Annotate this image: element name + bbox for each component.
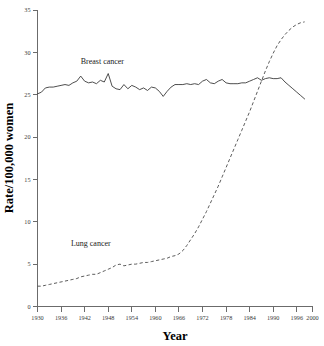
y-tick-label: 10	[24, 218, 30, 225]
y-axis-title: Rate/100,000 women	[2, 103, 16, 213]
y-axis-ticks: 05101520253035	[24, 6, 37, 310]
x-tick-label: 1984	[243, 314, 255, 321]
x-axis: 1930193619421948195419601966197219781984…	[31, 307, 318, 344]
x-tick-label: 1996	[291, 314, 303, 321]
series-annotations: Breast cancerLung cancer	[71, 57, 124, 247]
x-tick-label: 1972	[196, 314, 208, 321]
chart-canvas: 05101520253035 Rate/100,000 women 193019…	[0, 0, 324, 346]
x-tick-label: 1948	[102, 314, 114, 321]
y-tick-label: 35	[24, 6, 30, 13]
x-tick-label: 1966	[173, 314, 185, 321]
x-tick-label: 2000	[306, 314, 318, 321]
x-tick-label: 1978	[220, 314, 232, 321]
y-tick-label: 25	[24, 91, 30, 98]
y-tick-label: 30	[24, 49, 30, 56]
x-tick-label: 1990	[267, 314, 279, 321]
series-annotation-label: Lung cancer	[71, 239, 111, 248]
x-tick-label: 1942	[78, 314, 90, 321]
y-axis: 05101520253035 Rate/100,000 women	[2, 6, 38, 310]
cancer-rate-line-chart: 05101520253035 Rate/100,000 women 193019…	[0, 0, 324, 346]
y-tick-label: 20	[24, 133, 30, 140]
x-tick-label: 1954	[126, 314, 138, 321]
x-tick-label: 1936	[55, 314, 67, 321]
series-annotation-label: Breast cancer	[81, 57, 125, 66]
x-axis-title: Year	[163, 329, 188, 343]
y-tick-label: 0	[27, 303, 30, 310]
series-line-breast-cancer	[38, 74, 305, 99]
x-axis-ticks: 1930193619421948195419601966197219781984…	[31, 307, 318, 322]
y-tick-label: 5	[27, 260, 30, 267]
x-tick-label: 1960	[149, 314, 161, 321]
y-tick-label: 15	[24, 176, 30, 183]
x-tick-label: 1930	[31, 314, 43, 321]
